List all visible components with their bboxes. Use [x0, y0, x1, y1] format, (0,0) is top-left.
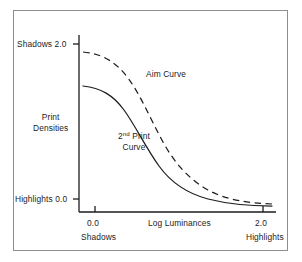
aim-curve-annotation: Aim Curve [146, 69, 186, 79]
y-axis-title-line2: Densities [33, 123, 68, 134]
chart-figure: Shadows 2.0 Highlights 0.0 Print Densiti… [0, 0, 302, 262]
y-axis-bottom-tick-label: Highlights 0.0 [15, 194, 67, 204]
x-axis-tick-label-left: 0.0 [87, 218, 99, 228]
second-print-curve-annotation: 2nd Print Curve [118, 128, 150, 153]
print-curve-ordinal-suffix: nd [123, 130, 130, 137]
y-axis-title-line1: Print [33, 112, 68, 123]
y-axis-title: Print Densities [33, 112, 68, 134]
x-axis-sublabel-left: Shadows [81, 232, 116, 242]
second-print-curve-annotation-line1: 2nd Print [118, 128, 150, 142]
x-axis-title: Log Luminances [148, 218, 211, 228]
second-print-curve-annotation-line2: Curve [118, 142, 150, 153]
print-curve-word: Print [130, 131, 150, 141]
y-axis-top-tick-label: Shadows 2.0 [17, 39, 67, 49]
second-print-curve-path [83, 86, 272, 206]
x-axis-tick-label-right: 2.0 [255, 218, 267, 228]
x-axis-sublabel-right: Highlights [246, 232, 284, 242]
